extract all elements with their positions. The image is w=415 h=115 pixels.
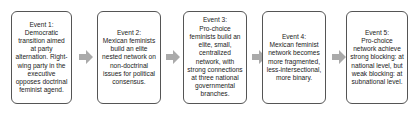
event-4-text: Mexican feminist network becomes more fr… xyxy=(267,41,322,81)
event-1-box: Event 1: Democratic transition aimed at … xyxy=(11,11,72,104)
event-3-text: Pro-choice feminists build an elite, sma… xyxy=(187,25,242,98)
event-2-box: Event 2: Mexican feminists build an elit… xyxy=(97,11,161,104)
event-5-box: Event 5: Pro-choice network achieve stro… xyxy=(346,11,408,104)
event-1-content: Event 1: Democratic transition aimed at … xyxy=(15,21,68,95)
event-2-content: Event 2: Mexican feminists build an elit… xyxy=(101,29,157,86)
event-3-box: Event 3: Pro-choice feminists build an e… xyxy=(183,11,247,104)
event-5-text: Pro-choice network achieve strong blocki… xyxy=(350,37,404,85)
event-3-content: Event 3: Pro-choice feminists build an e… xyxy=(187,16,243,98)
right-arrow-icon xyxy=(166,50,180,64)
right-arrow-icon xyxy=(79,50,93,64)
event-2-text: Mexican feminists build an elite nested … xyxy=(102,37,156,85)
event-1-text: Democratic transition aimed at party alt… xyxy=(15,29,67,93)
event-4-box: Event 4: Mexican feminist network become… xyxy=(262,11,326,104)
event-5-title: Event 5: xyxy=(350,29,404,37)
event-3-title: Event 3: xyxy=(187,16,243,24)
event-1-title: Event 1: xyxy=(15,21,68,29)
event-4-title: Event 4: xyxy=(266,33,322,41)
event-5-content: Event 5: Pro-choice network achieve stro… xyxy=(350,29,404,86)
event-4-content: Event 4: Mexican feminist network become… xyxy=(266,33,322,82)
right-arrow-icon xyxy=(332,50,346,64)
event-2-title: Event 2: xyxy=(101,29,157,37)
